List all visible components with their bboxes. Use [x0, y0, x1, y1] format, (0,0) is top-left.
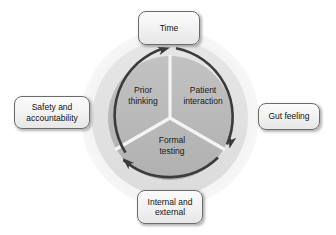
callout-time[interactable]: Time — [138, 11, 200, 45]
callout-safety-and-accountability[interactable]: Safety and accountability — [14, 96, 90, 129]
callout-internal-and-external[interactable]: Internal and external — [137, 190, 203, 224]
callout-gut-feeling[interactable]: Gut feeling — [258, 103, 320, 130]
diagram-canvas: Patient interaction Formal testing Prior… — [0, 0, 336, 235]
